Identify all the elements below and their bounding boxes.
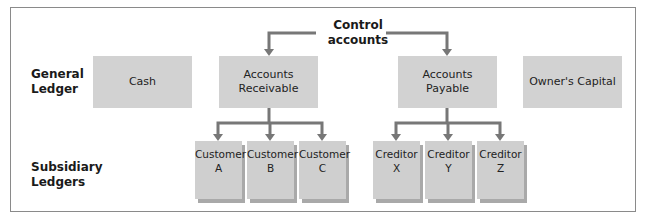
row-label-line2: Ledger	[31, 82, 84, 97]
card-label-line1: Creditor	[373, 147, 420, 161]
card-label-line1: Creditor	[477, 147, 524, 161]
sub-card-customer-a: Customer A	[195, 141, 242, 199]
card-label-line2: C	[299, 161, 346, 175]
box-label-line2: Payable	[422, 82, 472, 96]
box-label-line1: Accounts	[422, 68, 472, 82]
card-label-line2: Y	[425, 161, 472, 175]
row-label-line1: Subsidiary	[31, 160, 103, 175]
sub-card-customer-b: Customer B	[247, 141, 294, 199]
sub-card-creditor-x: Creditor X	[373, 141, 420, 199]
card-label-line2: Z	[477, 161, 524, 175]
gl-box-accounts-receivable: Accounts Receivable	[219, 56, 318, 108]
gl-box-cash: Cash	[93, 56, 192, 108]
row-label-general-ledger: General Ledger	[31, 67, 84, 97]
box-label: Owner's Capital	[529, 75, 616, 88]
card-label-line1: Creditor	[425, 147, 472, 161]
card-label-line1: Customer	[299, 147, 346, 161]
row-label-line1: General	[31, 67, 84, 82]
card-label-line2: X	[373, 161, 420, 175]
control-label-line1: Control	[318, 18, 398, 33]
sub-card-creditor-z: Creditor Z	[477, 141, 524, 199]
sub-card-creditor-y: Creditor Y	[425, 141, 472, 199]
row-label-subsidiary-ledgers: Subsidiary Ledgers	[31, 160, 103, 190]
gl-box-owners-capital: Owner's Capital	[523, 56, 622, 108]
card-label-line2: A	[195, 161, 242, 175]
row-label-line2: Ledgers	[31, 175, 103, 190]
box-label-line2: Receivable	[239, 82, 299, 96]
control-accounts-label: Control accounts	[318, 18, 398, 48]
box-label: Cash	[129, 75, 156, 88]
box-label-line1: Accounts	[239, 68, 299, 82]
control-label-line2: accounts	[318, 33, 398, 48]
gl-box-accounts-payable: Accounts Payable	[398, 56, 497, 108]
card-label-line1: Customer	[195, 147, 242, 161]
card-label-line2: B	[247, 161, 294, 175]
card-label-line1: Customer	[247, 147, 294, 161]
sub-card-customer-c: Customer C	[299, 141, 346, 199]
